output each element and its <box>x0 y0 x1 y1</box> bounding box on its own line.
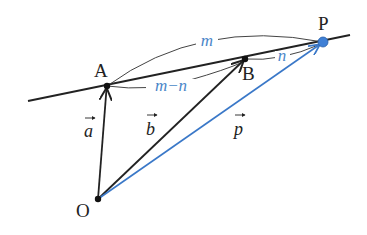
point-o <box>95 196 101 202</box>
point-b <box>242 56 248 62</box>
vector-label-a: a <box>84 116 96 141</box>
length-label-m-minus-n: m−n <box>155 76 187 95</box>
vector-a <box>98 89 107 199</box>
vector-label-p: p <box>232 113 246 139</box>
vector-label-b: b <box>146 113 158 139</box>
svg-text:p: p <box>232 119 243 139</box>
point-p <box>318 37 328 47</box>
point-label-p: P <box>318 13 329 34</box>
point-label-a: A <box>94 60 108 81</box>
svg-text:a: a <box>84 121 93 141</box>
length-label-m: m <box>201 31 213 50</box>
point-a <box>104 83 110 89</box>
svg-text:b: b <box>146 119 155 139</box>
point-label-b: B <box>242 63 255 84</box>
point-label-o: O <box>76 200 90 221</box>
vector-p <box>98 45 319 199</box>
vector-diagram: m m−n n O A B P a b p <box>0 0 367 235</box>
length-label-n: n <box>278 46 287 65</box>
